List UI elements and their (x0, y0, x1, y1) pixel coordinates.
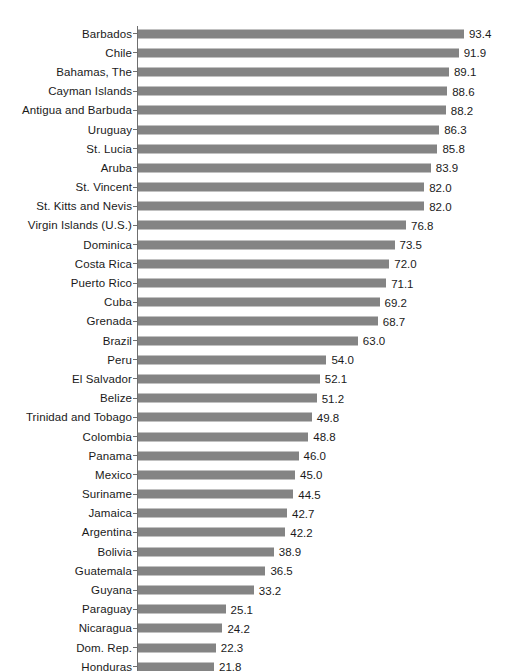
bar-track: 48.8 (138, 432, 487, 441)
bar-value-label: 44.5 (293, 488, 320, 500)
bar (138, 413, 312, 422)
bar-track: 71.1 (138, 279, 487, 288)
category-tick (133, 302, 137, 303)
bar-row: Argentina42.2 (0, 523, 517, 542)
bar (138, 163, 431, 172)
category-label: St. Lucia (86, 143, 137, 155)
bar-row: Dominica73.5 (0, 235, 517, 254)
category-label: Honduras (81, 661, 137, 671)
bar-row: El Salvador52.1 (0, 369, 517, 388)
category-tick (133, 167, 137, 168)
bar-track: 42.7 (138, 509, 487, 518)
category-tick (133, 225, 137, 226)
category-tick (133, 340, 137, 341)
bar-track: 42.2 (138, 528, 487, 537)
bar (138, 259, 389, 268)
category-label: Guyana (91, 584, 137, 596)
bar (138, 374, 320, 383)
bar-track: 52.1 (138, 374, 487, 383)
bar-row: Jamaica42.7 (0, 504, 517, 523)
bar-row: Colombia48.8 (0, 427, 517, 446)
bar (138, 394, 317, 403)
bar-track: 85.8 (138, 144, 487, 153)
bar (138, 106, 446, 115)
bar-track: 51.2 (138, 394, 487, 403)
category-label: Barbados (82, 28, 137, 40)
bar (138, 643, 216, 652)
bar-row: Suriname44.5 (0, 485, 517, 504)
bar-row: Nicaragua24.2 (0, 619, 517, 638)
category-label: Puerto Rico (71, 277, 137, 289)
bar-track: 54.0 (138, 355, 487, 364)
bar-track: 63.0 (138, 336, 487, 345)
category-tick (133, 436, 137, 437)
bar (138, 125, 439, 134)
category-label: Bolivia (97, 546, 137, 558)
category-tick (133, 244, 137, 245)
bar-row: Brazil63.0 (0, 331, 517, 350)
category-tick (133, 148, 137, 149)
category-label: Uruguay (88, 124, 137, 136)
bar (138, 279, 386, 288)
bar-row: Guatemala36.5 (0, 561, 517, 580)
bar-track: 22.3 (138, 643, 487, 652)
category-label: Brazil (103, 335, 137, 347)
bar-row: Bolivia38.9 (0, 542, 517, 561)
bar-row: Dom. Rep.22.3 (0, 638, 517, 657)
category-label: Guatemala (75, 565, 137, 577)
category-label: St. Kitts and Nevis (36, 200, 137, 212)
category-label: Colombia (83, 431, 137, 443)
bar-value-label: 36.5 (265, 565, 292, 577)
category-label: Aruba (101, 162, 137, 174)
category-label: Suriname (82, 488, 137, 500)
bar-track: 82.0 (138, 183, 487, 192)
category-label: Virgin Islands (U.S.) (28, 219, 137, 231)
bar-value-label: 49.8 (312, 411, 339, 423)
bar (138, 605, 226, 614)
category-tick (133, 91, 137, 92)
category-label: Costa Rica (75, 258, 137, 270)
bar-value-label: 71.1 (386, 277, 413, 289)
bar-track: 44.5 (138, 490, 487, 499)
bar-value-label: 22.3 (216, 642, 243, 654)
category-tick (133, 532, 137, 533)
bar-value-label: 51.2 (317, 392, 344, 404)
bar-track: 24.2 (138, 624, 487, 633)
category-tick (133, 33, 137, 34)
bar-row: Peru54.0 (0, 350, 517, 369)
bar-row: St. Lucia85.8 (0, 139, 517, 158)
bar-row: Paraguay25.1 (0, 600, 517, 619)
bar (138, 317, 378, 326)
category-label: Bahamas, The (56, 66, 137, 78)
bar (138, 355, 326, 364)
bar-track: 69.2 (138, 298, 487, 307)
category-tick (133, 359, 137, 360)
bar-row: Virgin Islands (U.S.)76.8 (0, 216, 517, 235)
category-label: Belize (100, 392, 137, 404)
category-tick (133, 513, 137, 514)
bar (138, 336, 358, 345)
bar (138, 624, 222, 633)
category-tick (133, 666, 137, 667)
category-tick (133, 52, 137, 53)
category-label: Dominica (83, 239, 137, 251)
bar-value-label: 93.4 (464, 28, 491, 40)
category-tick (133, 283, 137, 284)
bar-value-label: 45.0 (295, 469, 322, 481)
bar (138, 29, 464, 38)
bar-track: 76.8 (138, 221, 487, 230)
bar-row: Barbados93.4 (0, 24, 517, 43)
category-label: El Salvador (72, 373, 137, 385)
category-tick (133, 321, 137, 322)
bar-value-label: 33.2 (254, 584, 281, 596)
bar (138, 67, 449, 76)
category-label: Antigua and Barbuda (22, 104, 137, 116)
category-tick (133, 570, 137, 571)
bar-track: 68.7 (138, 317, 487, 326)
bar-row: Cayman Islands88.6 (0, 82, 517, 101)
bar (138, 451, 299, 460)
bar-row: Chile91.9 (0, 43, 517, 62)
bar-track: 38.9 (138, 547, 487, 556)
bar (138, 662, 214, 671)
category-label: St. Vincent (75, 181, 137, 193)
